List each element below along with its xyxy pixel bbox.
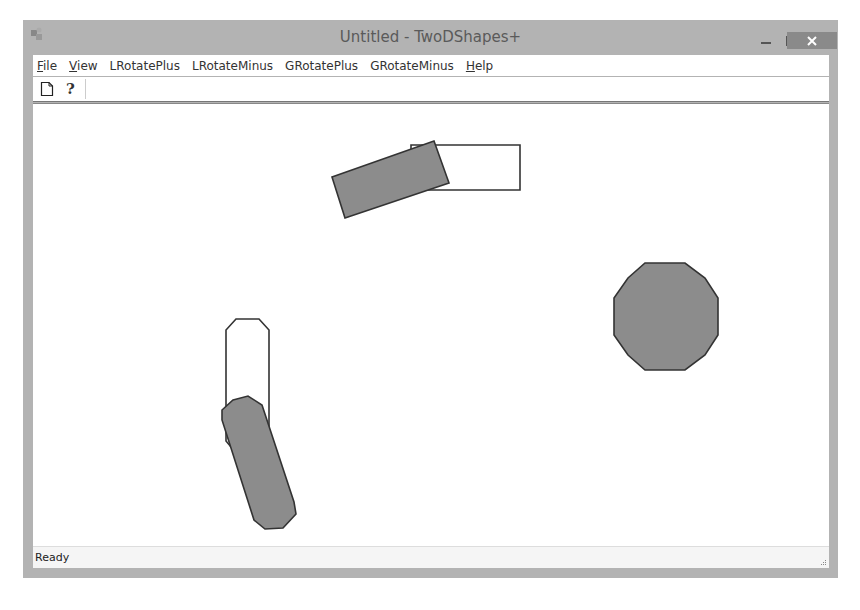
rectangle-rotated-filled[interactable] (332, 141, 449, 218)
dodecagon-filled[interactable] (614, 263, 718, 370)
shapes-layer (0, 0, 860, 610)
capsule-rotated-filled[interactable] (222, 396, 296, 529)
